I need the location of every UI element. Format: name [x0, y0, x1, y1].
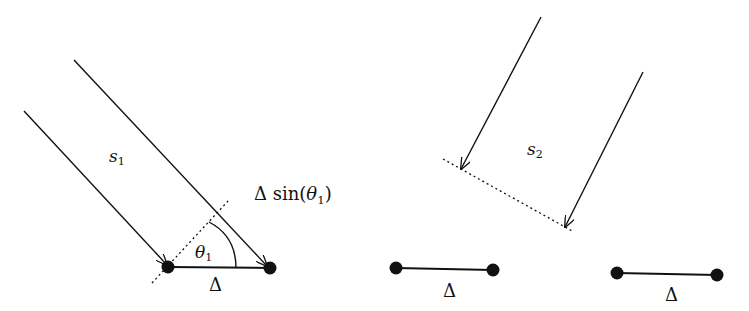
sensor-dot — [162, 261, 175, 274]
array-geometry-diagram: s1 θ1 Δ sin(θ1) Δ s2 Δ Δ — [0, 0, 749, 311]
sensor-dot — [611, 267, 624, 280]
sensor-dot — [487, 264, 500, 277]
left-panel — [24, 60, 277, 283]
signal-label-s1: s1 — [109, 148, 125, 167]
incoming-ray-4 — [565, 72, 643, 227]
incoming-ray-1 — [24, 111, 167, 265]
signal-label-s2: s2 — [527, 141, 543, 160]
baseline-label-delta: Δ — [665, 286, 678, 304]
incoming-ray-2 — [74, 60, 267, 266]
sensor-dot — [264, 262, 277, 275]
baseline-label-delta: Δ — [443, 282, 456, 300]
baseline-label-delta: Δ — [209, 276, 222, 294]
baseline — [617, 273, 717, 275]
right-panel — [390, 17, 724, 282]
angle-label-theta1: θ1 — [195, 244, 212, 263]
baseline — [396, 268, 493, 270]
baseline — [168, 267, 269, 268]
path-difference-label: Δ sin(θ1) — [254, 185, 332, 206]
sensor-dot — [390, 262, 403, 275]
wavefront-dotted — [443, 159, 574, 232]
sensor-dot — [711, 269, 724, 282]
